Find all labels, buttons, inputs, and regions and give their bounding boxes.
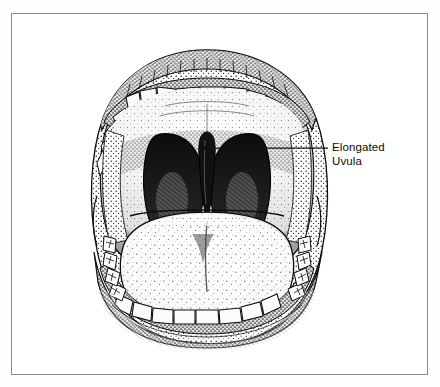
uvula-callout-label-line2: Uvula (332, 155, 362, 169)
mouth-illustration (0, 0, 440, 387)
figure-root: Elongated Uvula (0, 0, 440, 387)
uvula-callout-label-line1: Elongated (332, 141, 385, 155)
